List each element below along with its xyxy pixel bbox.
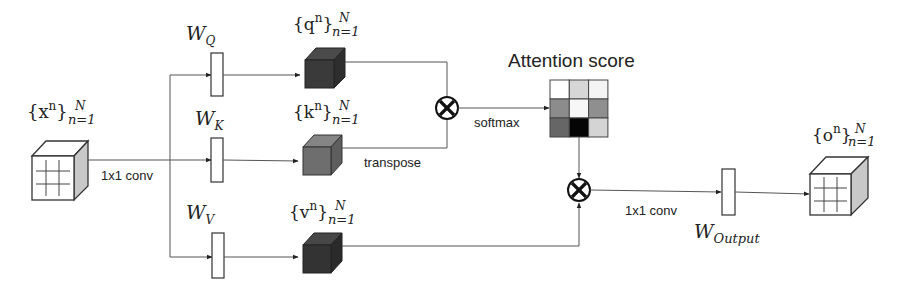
query-tensor-cube <box>305 48 345 88</box>
wq-label: WQ <box>186 22 216 48</box>
input-label-upper: N <box>74 99 86 113</box>
value-tensor-cube <box>303 233 342 273</box>
output-label: {on} <box>812 122 852 145</box>
attention-cell <box>550 118 569 137</box>
attention-cell <box>589 118 608 137</box>
attention-score-title: Attention score <box>508 50 635 71</box>
output-label-lower: n=1 <box>848 134 876 149</box>
key-label: {kn} <box>293 99 333 122</box>
value-label: {vn} <box>289 199 328 222</box>
woutput-weight-box <box>722 169 735 215</box>
arrow-wk-to-k <box>223 160 298 161</box>
key-label-lower: n=1 <box>332 112 360 127</box>
value-label-upper: N <box>334 199 346 213</box>
attention-cell <box>550 99 569 118</box>
output-conv-label: 1x1 conv <box>625 203 678 218</box>
self-attention-diagram: {xn} N n=1 1x1 conv WQ WK WV {qn} N n=1 <box>0 0 909 292</box>
matmul-operator-bottom <box>568 179 590 201</box>
softmax-label: softmax <box>474 115 520 130</box>
input-label-lower: n=1 <box>68 112 96 127</box>
key-tensor-cube <box>303 135 342 175</box>
query-label-upper: N <box>338 11 350 25</box>
key-label-upper: N <box>338 99 350 113</box>
transpose-label: transpose <box>364 155 421 170</box>
attention-cell <box>569 118 588 137</box>
input-label: {xn} <box>27 99 68 122</box>
line-q-to-matmul <box>345 62 447 97</box>
wv-weight-box <box>212 233 224 278</box>
attention-cell <box>589 80 608 99</box>
arrow-v-to-matmul <box>342 203 579 246</box>
query-label-lower: n=1 <box>332 24 360 39</box>
matmul-operator-top <box>436 97 458 119</box>
wk-weight-box <box>211 138 223 182</box>
woutput-label: WOutput <box>694 220 760 246</box>
attention-cell <box>589 99 608 118</box>
input-feature-cube <box>32 141 88 200</box>
query-label: {qn} <box>293 11 333 34</box>
attention-cell <box>550 80 569 99</box>
input-conv-label: 1x1 conv <box>101 168 154 183</box>
value-label-lower: n=1 <box>328 212 356 227</box>
arrow-to-woutput <box>590 190 721 192</box>
attention-cell <box>569 99 588 118</box>
attention-cell <box>569 80 588 99</box>
output-feature-cube <box>810 157 868 215</box>
arrow-to-output <box>735 192 809 194</box>
attention-score-matrix <box>550 80 608 137</box>
wq-weight-box <box>211 53 223 96</box>
wk-label: WK <box>195 107 225 133</box>
wv-label: WV <box>186 201 216 227</box>
